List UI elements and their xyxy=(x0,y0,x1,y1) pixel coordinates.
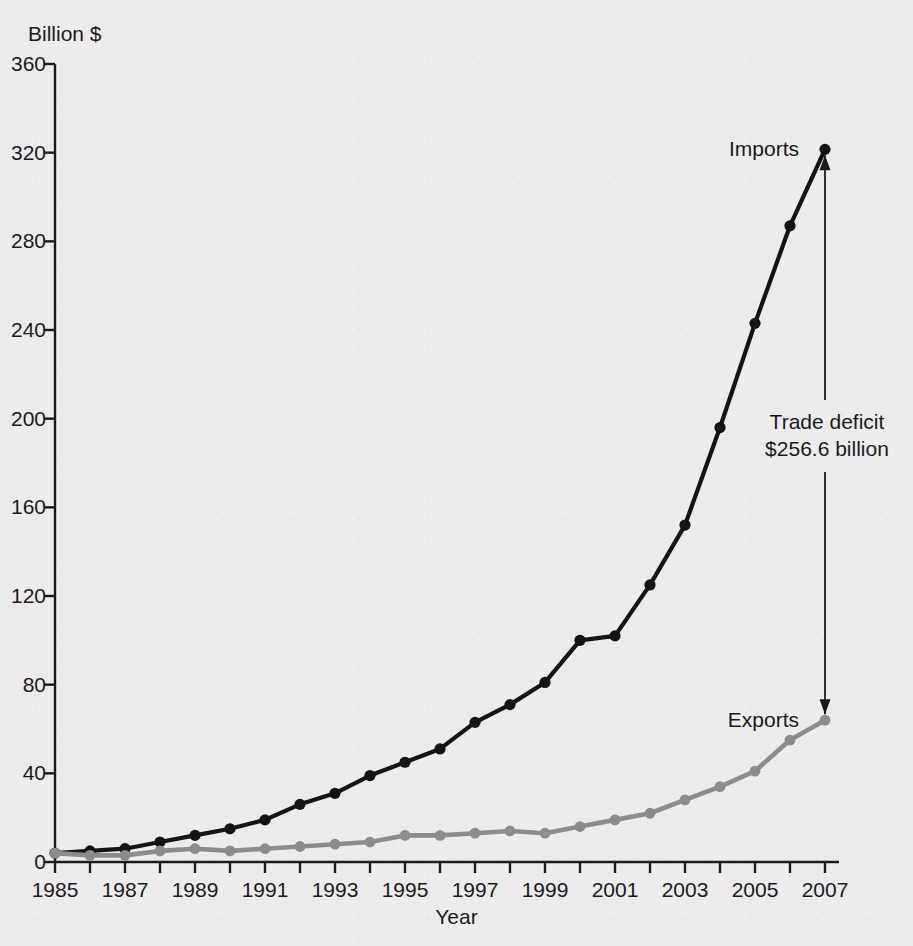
x-tick-label: 1993 xyxy=(312,878,359,902)
data-point-exports-1995[interactable] xyxy=(400,830,411,841)
data-point-exports-1999[interactable] xyxy=(540,828,551,839)
chart-figure: Billion $ 040801201602002402803203601985… xyxy=(0,0,913,946)
data-point-imports-1994[interactable] xyxy=(364,770,375,781)
y-tick-label: 0 xyxy=(0,850,46,874)
x-tick-label: 2003 xyxy=(662,878,709,902)
data-point-exports-1989[interactable] xyxy=(190,843,201,854)
x-tick-label: 2001 xyxy=(592,878,639,902)
y-tick-label: 40 xyxy=(0,761,46,785)
x-tick-label: 1985 xyxy=(32,878,79,902)
data-point-imports-1998[interactable] xyxy=(504,699,515,710)
data-point-imports-2001[interactable] xyxy=(609,630,620,641)
data-point-exports-2005[interactable] xyxy=(750,766,761,777)
data-point-imports-1993[interactable] xyxy=(329,788,340,799)
data-point-imports-2006[interactable] xyxy=(784,220,795,231)
x-axis-title: Year xyxy=(0,905,913,929)
data-point-exports-1997[interactable] xyxy=(470,828,481,839)
x-tick-label: 1987 xyxy=(102,878,149,902)
trade-deficit-line-2: $256.6 billion xyxy=(765,436,889,463)
trade-deficit-line-1: Trade deficit xyxy=(765,409,889,436)
data-point-imports-2000[interactable] xyxy=(574,635,585,646)
data-point-exports-1998[interactable] xyxy=(505,826,516,837)
data-point-imports-1996[interactable] xyxy=(434,743,445,754)
data-point-imports-2002[interactable] xyxy=(644,579,655,590)
data-point-exports-1996[interactable] xyxy=(435,830,446,841)
data-point-imports-1992[interactable] xyxy=(294,799,305,810)
data-point-exports-1985[interactable] xyxy=(50,848,61,859)
data-point-exports-1994[interactable] xyxy=(365,837,376,848)
data-point-exports-2003[interactable] xyxy=(680,795,691,806)
y-tick-label: 360 xyxy=(0,52,46,76)
data-point-exports-2000[interactable] xyxy=(575,821,586,832)
data-point-imports-2005[interactable] xyxy=(749,318,760,329)
x-tick-label: 2007 xyxy=(802,878,849,902)
x-tick-label: 1995 xyxy=(382,878,429,902)
data-point-imports-2007[interactable] xyxy=(819,144,830,155)
data-point-exports-1991[interactable] xyxy=(260,843,271,854)
data-point-exports-2006[interactable] xyxy=(785,735,796,746)
data-point-exports-2004[interactable] xyxy=(715,781,726,792)
data-point-imports-2004[interactable] xyxy=(714,422,725,433)
y-tick-label: 160 xyxy=(0,495,46,519)
exports-series-label: Exports xyxy=(728,708,799,732)
y-tick-label: 80 xyxy=(0,673,46,697)
y-tick-label: 200 xyxy=(0,407,46,431)
trade-deficit-annotation: Trade deficit$256.6 billion xyxy=(765,409,889,463)
data-point-imports-1991[interactable] xyxy=(259,814,270,825)
data-point-imports-1997[interactable] xyxy=(469,717,480,728)
data-point-imports-2003[interactable] xyxy=(679,519,690,530)
y-tick-label: 320 xyxy=(0,141,46,165)
data-point-exports-2002[interactable] xyxy=(645,808,656,819)
data-point-imports-1989[interactable] xyxy=(189,830,200,841)
y-tick-label: 280 xyxy=(0,229,46,253)
data-point-exports-2001[interactable] xyxy=(610,814,621,825)
data-point-exports-1988[interactable] xyxy=(155,846,166,857)
data-point-imports-1999[interactable] xyxy=(539,677,550,688)
y-tick-label: 240 xyxy=(0,318,46,342)
x-tick-label: 1999 xyxy=(522,878,569,902)
x-tick-label: 1991 xyxy=(242,878,289,902)
data-point-exports-1986[interactable] xyxy=(85,850,96,861)
x-tick-label: 2005 xyxy=(732,878,779,902)
arrow-head-down xyxy=(820,699,831,714)
data-point-imports-1995[interactable] xyxy=(399,757,410,768)
data-point-imports-1990[interactable] xyxy=(224,823,235,834)
imports-series-label: Imports xyxy=(729,137,799,161)
data-point-exports-1992[interactable] xyxy=(295,841,306,852)
x-tick-label: 1989 xyxy=(172,878,219,902)
data-point-exports-1993[interactable] xyxy=(330,839,341,850)
data-point-exports-1987[interactable] xyxy=(120,850,131,861)
data-point-exports-1990[interactable] xyxy=(225,846,236,857)
x-tick-label: 1997 xyxy=(452,878,499,902)
y-tick-label: 120 xyxy=(0,584,46,608)
data-point-exports-2007[interactable] xyxy=(820,715,831,726)
